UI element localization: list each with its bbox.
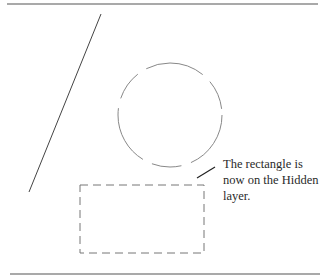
callout-line-3: layer. <box>223 188 328 204</box>
hidden-layer-rectangle <box>80 185 204 253</box>
drawing-canvas <box>0 0 330 276</box>
figure: The rectangle is now on the Hidden layer… <box>0 0 330 276</box>
dashed-circle <box>118 63 222 167</box>
callout-line-1: The rectangle is <box>223 156 328 172</box>
diagonal-line <box>29 14 101 192</box>
callout-line-2: now on the Hidden <box>223 172 328 188</box>
callout-text: The rectangle is now on the Hidden layer… <box>223 156 328 204</box>
leader-line <box>197 167 215 178</box>
